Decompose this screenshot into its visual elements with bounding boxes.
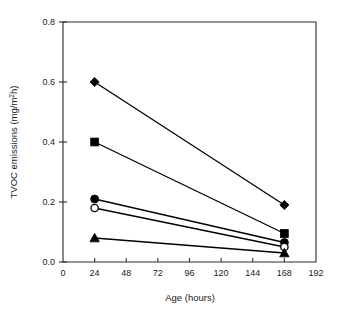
y-tick-label: 0.4	[42, 137, 55, 147]
series-square-marker	[91, 138, 99, 146]
x-tick-label: 192	[308, 268, 323, 278]
y-tick-label: 0.8	[42, 17, 55, 27]
y-axis-title-group: TVOC emissions (mg/m2h)	[8, 86, 19, 199]
y-axis-title: TVOC emissions (mg/m2h)	[8, 86, 19, 199]
x-axis-title: Age (hours)	[165, 292, 215, 303]
tvoc-emissions-line-chart: 0.00.20.40.60.8 024487296120144168192 Ag…	[0, 0, 340, 315]
x-tick-label: 0	[60, 268, 65, 278]
x-tick-label: 72	[153, 268, 163, 278]
series-filled-circle-marker	[91, 195, 99, 203]
x-tick-label: 48	[121, 268, 131, 278]
chart-container: 0.00.20.40.60.8 024487296120144168192 Ag…	[0, 0, 340, 315]
y-tick-label: 0.2	[42, 197, 55, 207]
x-tick-label: 24	[90, 268, 100, 278]
y-tick-label: 0.6	[42, 77, 55, 87]
x-tick-label: 120	[214, 268, 229, 278]
series-open-circle-marker	[91, 204, 98, 211]
x-tick-label: 96	[184, 268, 194, 278]
x-tick-label: 144	[245, 268, 260, 278]
x-tick-label: 168	[277, 268, 292, 278]
series-square-marker	[280, 230, 288, 238]
y-tick-label: 0.0	[42, 257, 55, 267]
